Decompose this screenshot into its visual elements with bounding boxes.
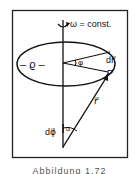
dr-label: dr⃗ (106, 55, 116, 65)
r-vector-label: r⃗ (94, 96, 99, 106)
point-p-label: P (107, 68, 113, 78)
omega-label: ω = const. (70, 19, 111, 29)
radius-line-lower (63, 63, 108, 72)
phi-label: φ (78, 58, 83, 67)
radius-line-upper (63, 52, 110, 63)
figure-caption: Abbildung 1.72 (0, 166, 139, 174)
rotation-diagram: ω = const. – ϱ – φ dr⃗ P r⃗ dφ⃗ α (0, 0, 139, 174)
rho-label: – ϱ – (20, 58, 46, 70)
angle-arc (75, 60, 76, 66)
alpha-label: α (66, 125, 70, 132)
position-vector-r (63, 78, 106, 147)
dphi-label: dφ⃗ (45, 127, 56, 137)
